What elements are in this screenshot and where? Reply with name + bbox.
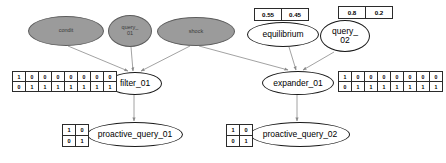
- node-equilibrium[interactable]: equilibrium: [247, 22, 319, 47]
- cpt-cell: 1: [240, 136, 253, 147]
- cpt-cell: 0: [52, 72, 65, 82]
- node-proactive_query_02[interactable]: proactive_query_02: [250, 122, 350, 147]
- edge-equilibrium-to-expander_01: [289, 47, 296, 70]
- cpt-cell: 0: [104, 72, 117, 82]
- cpt-cell: 1: [78, 82, 91, 92]
- cpt-cell: 0: [240, 125, 253, 136]
- node-expander_01[interactable]: expander_01: [262, 71, 334, 95]
- edge-condit-to-filter_01: [68, 46, 128, 71]
- node-proactive_query_01[interactable]: proactive_query_01: [87, 122, 183, 147]
- node-label-equilibrium: equilibrium: [248, 30, 318, 39]
- cpt-cell: 0.2: [366, 7, 393, 19]
- table-row: 0.550.45: [255, 9, 309, 21]
- cpt-proactive-query-01: 1001: [62, 124, 89, 147]
- table-row: 10000000: [339, 72, 443, 82]
- cpt-cell: 1: [339, 72, 352, 82]
- node-label-proactive_query_01: proactive_query_01: [88, 130, 182, 139]
- cpt-cell: 0: [352, 72, 365, 82]
- cpt-cell: 1: [65, 82, 78, 92]
- cpt-cell: 0: [417, 72, 430, 82]
- node-query_02[interactable]: query_ 02: [320, 20, 370, 52]
- cpt-cell: 1: [430, 82, 443, 92]
- cpt-cell: 0.8: [339, 7, 366, 19]
- cpt-cell: 0: [365, 72, 378, 82]
- cpt-equilibrium: 0.550.45: [254, 8, 309, 21]
- node-label-expander_01: expander_01: [263, 79, 333, 88]
- cpt-cell: 0: [91, 72, 104, 82]
- edge-shock-to-filter_01: [141, 46, 190, 71]
- node-condit[interactable]: condit: [28, 16, 104, 46]
- cpt-cell: 1: [352, 82, 365, 92]
- cpt-cell: 1: [404, 82, 417, 92]
- edge-query_02-to-expander_01: [303, 52, 334, 70]
- diagram-canvas: conditquery_ 01shockequilibriumquery_ 02…: [0, 0, 446, 163]
- cpt-query-02: 0.80.2: [338, 6, 393, 19]
- cpt-cell: 0: [26, 72, 39, 82]
- cpt-cell: 1: [13, 72, 26, 82]
- table-row: 01111111: [339, 82, 443, 92]
- cpt-cell: 1: [91, 82, 104, 92]
- table-row: 01: [63, 136, 89, 147]
- cpt-cell: 0: [63, 136, 76, 147]
- cpt-cell: 0: [39, 72, 52, 82]
- cpt-cell: 1: [63, 125, 76, 136]
- cpt-cell: 1: [391, 82, 404, 92]
- cpt-cell: 0.45: [282, 9, 309, 21]
- cpt-cell: 0: [13, 82, 26, 92]
- edge-query_01-to-filter_01: [131, 47, 133, 71]
- cpt-cell: 0: [339, 82, 352, 92]
- cpt-cell: 0: [76, 125, 89, 136]
- cpt-cell: 1: [76, 136, 89, 147]
- node-label-proactive_query_02: proactive_query_02: [251, 130, 349, 139]
- node-label-query_01: query_ 01: [109, 25, 151, 37]
- cpt-cell: 1: [39, 82, 52, 92]
- table-row: 10: [63, 125, 89, 136]
- node-label-shock: shock: [158, 29, 234, 35]
- cpt-cell: 0: [391, 72, 404, 82]
- node-query_01[interactable]: query_ 01: [108, 15, 152, 47]
- cpt-filter-01: 1000000001111111: [12, 71, 117, 92]
- cpt-cell: 1: [378, 82, 391, 92]
- node-label-query_02: query_ 02: [321, 27, 369, 45]
- edge-shock-to-expander_01: [199, 46, 288, 70]
- table-row: 01: [227, 136, 253, 147]
- table-row: 01111111: [13, 82, 117, 92]
- cpt-cell: 0: [65, 72, 78, 82]
- cpt-cell: 0: [78, 72, 91, 82]
- cpt-cell: 1: [417, 82, 430, 92]
- cpt-cell: 0: [430, 72, 443, 82]
- table-row: 0.80.2: [339, 7, 393, 19]
- cpt-cell: 0: [378, 72, 391, 82]
- cpt-cell: 0.55: [255, 9, 282, 21]
- cpt-cell: 1: [365, 82, 378, 92]
- cpt-cell: 1: [104, 82, 117, 92]
- cpt-cell: 1: [52, 82, 65, 92]
- node-label-condit: condit: [29, 28, 103, 34]
- cpt-cell: 0: [227, 136, 240, 147]
- node-shock[interactable]: shock: [157, 17, 235, 46]
- cpt-expander-01: 1000000001111111: [338, 71, 443, 92]
- cpt-cell: 1: [227, 125, 240, 136]
- cpt-proactive-query-02: 1001: [226, 124, 253, 147]
- table-row: 10000000: [13, 72, 117, 82]
- cpt-cell: 0: [404, 72, 417, 82]
- cpt-cell: 1: [26, 82, 39, 92]
- table-row: 10: [227, 125, 253, 136]
